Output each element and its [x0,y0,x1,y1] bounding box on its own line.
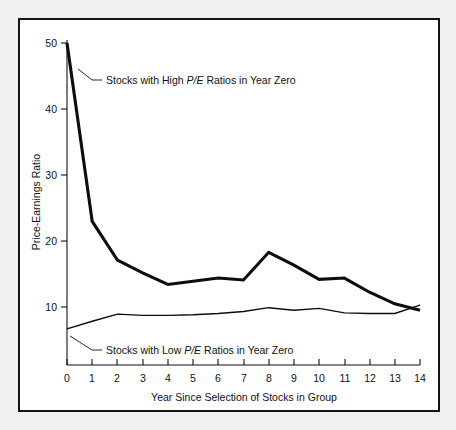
y-tick-label-10: 10 [45,301,57,313]
x-tick-label-10: 10 [313,372,325,384]
x-tick-label-7: 7 [241,372,247,384]
series-line-low-pe [67,305,420,329]
high-pe-label-prefix: Stocks with High [106,74,187,86]
low-pe-leader-line [70,336,102,350]
high-pe-annotation: Stocks with High P/E Ratios in Year Zero [78,69,296,86]
y-tick-label-50: 50 [45,37,57,49]
x-tick-label-13: 13 [389,372,401,384]
high-pe-leader-line [78,69,102,80]
x-tick-label-2: 2 [114,372,120,384]
x-tick-label-12: 12 [364,372,376,384]
x-tick-label-6: 6 [215,372,221,384]
low-pe-annotation-label: Stocks with Low P/E Ratios in Year Zero [106,344,294,356]
high-pe-label-suffix: Ratios in Year Zero [203,74,295,86]
x-tick-label-8: 8 [266,372,272,384]
high-pe-label-emphasis: P/E [187,74,205,86]
x-tick-label-0: 0 [64,372,70,384]
y-tick-label-40: 40 [45,103,57,115]
y-axis-title: Price-Earnings Ratio [30,154,42,250]
x-axis-title: Year Since Selection of Stocks in Group [151,391,337,403]
y-axis: 50 40 30 20 10 Price-Earnings Ratio [30,37,67,365]
x-tick-label-4: 4 [165,372,171,384]
x-axis: 0 1 2 3 4 5 6 7 8 9 10 11 12 13 14 Year … [64,359,426,403]
x-tick-label-11: 11 [340,372,351,384]
low-pe-annotation: Stocks with Low P/E Ratios in Year Zero [70,336,294,356]
chart-figure-frame: 50 40 30 20 10 Price-Earnings Ratio 0 [18,18,440,412]
price-earnings-ratio-line-chart: 50 40 30 20 10 Price-Earnings Ratio 0 [20,20,442,414]
low-pe-label-prefix: Stocks with Low [106,344,184,356]
y-tick-label-20: 20 [45,235,57,247]
x-tick-label-3: 3 [140,372,146,384]
x-tick-label-5: 5 [190,372,196,384]
low-pe-label-suffix: Ratios in Year Zero [201,344,293,356]
x-tick-label-14: 14 [414,372,426,384]
x-tick-label-1: 1 [89,372,95,384]
y-tick-label-30: 30 [45,169,57,181]
low-pe-label-emphasis: P/E [184,344,202,356]
high-pe-annotation-label: Stocks with High P/E Ratios in Year Zero [106,74,296,86]
x-tick-label-9: 9 [291,372,297,384]
